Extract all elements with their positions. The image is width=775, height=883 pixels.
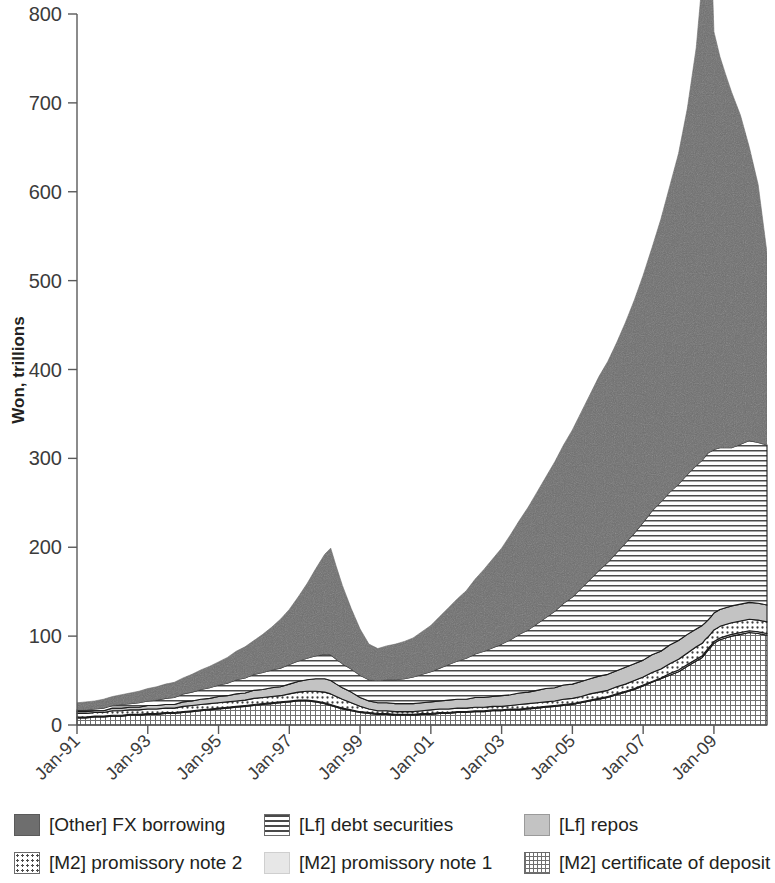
legend-label-cd: [M2] certificate of deposit: [559, 852, 770, 874]
y-axis-title: Won, trillions: [9, 316, 28, 423]
legend-row-1: [Other] FX borrowing [Lf] debt securitie…: [0, 806, 775, 844]
y-tick-label: 300: [29, 447, 62, 469]
y-tick-label: 600: [29, 181, 62, 203]
legend-swatch-fx: [14, 814, 40, 836]
legend-label-note2: [M2] promissory note 2: [49, 852, 242, 874]
x-tick-label: Jan-07: [597, 731, 650, 784]
stacked-area-chart-figure: 0100200300400500600700800Jan-91Jan-93Jan…: [0, 0, 775, 883]
legend-item-note1[interactable]: [M2] promissory note 1: [264, 852, 524, 874]
legend-item-fx[interactable]: [Other] FX borrowing: [14, 814, 264, 836]
x-tick-label: Jan-05: [526, 731, 579, 784]
legend-item-note2[interactable]: [M2] promissory note 2: [14, 852, 264, 874]
y-tick-label: 800: [29, 3, 62, 25]
legend-row-2: [M2] promissory note 2 [M2] promissory n…: [0, 844, 775, 882]
legend-label-repos: [Lf] repos: [559, 814, 638, 836]
legend-item-debt[interactable]: [Lf] debt securities: [264, 814, 524, 836]
x-tick-label: Jan-95: [172, 731, 225, 784]
x-tick-label: Jan-93: [102, 731, 155, 784]
legend-item-cd[interactable]: [M2] certificate of deposit: [524, 852, 770, 874]
x-tick-label: Jan-01: [385, 731, 438, 784]
x-tick-label: Jan-09: [668, 731, 721, 784]
y-tick-label: 700: [29, 92, 62, 114]
series-areas: [77, 0, 767, 725]
legend-label-note1: [M2] promissory note 1: [299, 852, 492, 874]
x-tick-label: Jan-03: [455, 731, 508, 784]
x-tick-label: Jan-99: [314, 731, 367, 784]
y-tick-label: 100: [29, 625, 62, 647]
legend-swatch-repos: [524, 814, 550, 836]
legend-swatch-note2: [14, 852, 40, 874]
chart-legend: [Other] FX borrowing [Lf] debt securitie…: [0, 806, 775, 883]
y-tick-label: 200: [29, 536, 62, 558]
legend-label-debt: [Lf] debt securities: [299, 814, 453, 836]
x-tick-label: Jan-97: [243, 731, 296, 784]
y-tick-label: 400: [29, 359, 62, 381]
x-tick-label: Jan-91: [31, 731, 84, 784]
legend-swatch-cd: [524, 852, 550, 874]
y-tick-label: 0: [51, 714, 62, 736]
legend-swatch-note1: [264, 852, 290, 874]
legend-label-fx: [Other] FX borrowing: [49, 814, 225, 836]
y-tick-label: 500: [29, 270, 62, 292]
chart-plot-area: 0100200300400500600700800Jan-91Jan-93Jan…: [0, 0, 775, 806]
legend-item-repos[interactable]: [Lf] repos: [524, 814, 638, 836]
legend-swatch-debt: [264, 814, 290, 836]
